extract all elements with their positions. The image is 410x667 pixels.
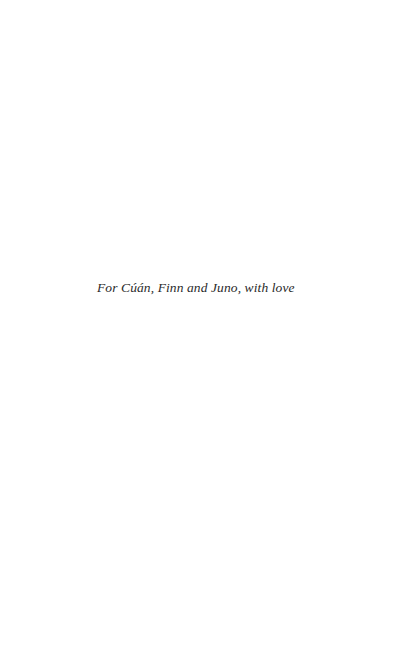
book-page: For Cúán, Finn and Juno, with love (0, 0, 410, 667)
dedication-text: For Cúán, Finn and Juno, with love (97, 280, 295, 296)
